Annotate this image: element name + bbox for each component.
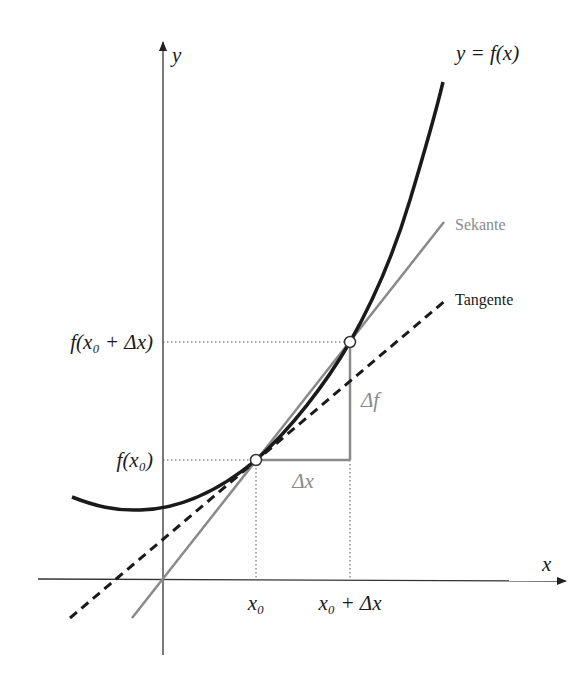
delta-f-label: Δf xyxy=(360,388,382,412)
y-axis-label: y xyxy=(170,43,182,67)
function-curve xyxy=(72,82,443,510)
tangent-label: Tangente xyxy=(455,291,513,309)
x-tick-x0-plus-dx: x₀ + Δx xyxy=(318,591,383,615)
curve-label: y = f(x) xyxy=(454,41,519,65)
secant-tangent-diagram: y x y = f(x) Sekante Tangente f(x₀ + Δx)… xyxy=(0,0,587,680)
secant-line xyxy=(132,222,444,618)
point-x0-plus-dx xyxy=(345,337,356,348)
y-tick-f-x0: f(x₀) xyxy=(117,448,153,472)
x-axis-label: x xyxy=(541,552,552,576)
point-x0 xyxy=(251,455,262,466)
delta-x-label: Δx xyxy=(291,469,314,493)
x-tick-x0: x₀ xyxy=(247,591,265,615)
secant-label: Sekante xyxy=(455,216,506,233)
y-tick-f-x0-plus-dx: f(x₀ + Δx) xyxy=(70,330,153,354)
